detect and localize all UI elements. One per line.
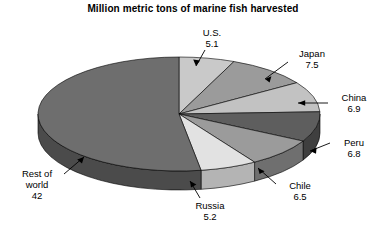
slice-label-japan: Japan 7.5 [290,48,334,70]
slice-label-peru-value: 6.8 [332,148,376,159]
slice-label-japan-name: Japan [290,48,334,59]
slice-label-rest-of-world: Rest of world 42 [6,168,68,201]
slice-label-chile-value: 6.5 [278,191,322,202]
slice-label-japan-value: 7.5 [290,59,334,70]
slice-label-russia-value: 5.2 [186,211,234,222]
slice-label-russia-name: Russia [186,200,234,211]
slice-label-rest-of-world-value: 42 [6,190,68,201]
slice-label-us: U.S. 5.1 [190,27,234,49]
slice-label-us-value: 5.1 [190,38,234,49]
slice-label-china-value: 6.9 [330,103,378,114]
slice-label-china-name: China [330,92,378,103]
pie-top-faces [38,57,320,171]
slice-label-china: China 6.9 [330,92,378,114]
slice-label-chile: Chile 6.5 [278,180,322,202]
slice-label-chile-name: Chile [278,180,322,191]
slice-label-rest-of-world-name2: world [6,179,68,190]
slice-label-us-name: U.S. [190,27,234,38]
pie-chart-figure: Million metric tons of marine fish harve… [0,0,386,241]
slice-label-rest-of-world-name: Rest of [6,168,68,179]
slice-label-russia: Russia 5.2 [186,200,234,222]
slice-label-peru-name: Peru [332,137,376,148]
slice-label-peru: Peru 6.8 [332,137,376,159]
